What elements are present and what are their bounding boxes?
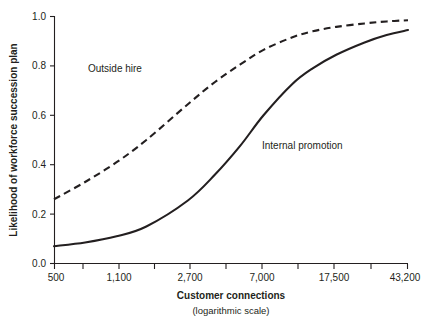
- y-tick-label-4: 0.8: [32, 60, 46, 71]
- x-axis-title: Customer connections: [177, 290, 286, 301]
- y-tick-label-2: 0.4: [32, 159, 46, 170]
- series-annotation-outside-hire: Outside hire: [88, 63, 142, 74]
- series-annotation-internal-promotion: Internal promotion: [262, 140, 343, 151]
- x-tick-label-0: 500: [48, 272, 65, 283]
- chart-figure: 0.0 0.2 0.4 0.6 0.8 1.0 500 1,100 2,700 …: [0, 0, 428, 325]
- y-tick-label-1: 0.2: [32, 209, 46, 220]
- x-tick-label-5: 43,200: [390, 272, 421, 283]
- y-axis-title: Likelihood of workforce succession plan: [8, 43, 19, 236]
- x-axis-ticks: [55, 264, 408, 270]
- y-tick-label-3: 0.6: [32, 110, 46, 121]
- succession-plan-line-chart: 0.0 0.2 0.4 0.6 0.8 1.0 500 1,100 2,700 …: [0, 0, 428, 325]
- x-tick-label-4: 17,500: [319, 272, 350, 283]
- x-tick-label-3: 7,000: [249, 272, 274, 283]
- x-axis-subtitle: (logarithmic scale): [192, 305, 269, 316]
- y-tick-label-5: 1.0: [32, 11, 46, 22]
- x-tick-label-1: 1,100: [106, 272, 131, 283]
- y-tick-label-0: 0.0: [32, 258, 46, 269]
- x-tick-label-2: 2,700: [177, 272, 202, 283]
- y-axis-ticks: [50, 17, 55, 264]
